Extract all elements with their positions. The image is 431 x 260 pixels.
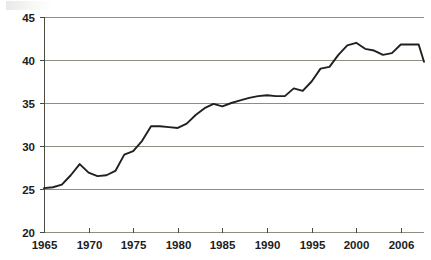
x-tick-marks [45,228,402,233]
x-tick-label-1965: 1965 [32,239,58,251]
y-tick-label-30: 30 [22,141,35,153]
data-line-series-1 [44,43,424,188]
x-tick-label-1975: 1975 [121,239,147,251]
data-series-group [44,43,424,188]
x-tick-label-1985: 1985 [210,239,236,251]
x-tick-label-2006: 2006 [389,239,415,251]
y-tick-label-20: 20 [22,227,35,239]
x-tick-labels: 196519701975198019851990199520002006 [32,239,415,251]
x-tick-label-2000: 2000 [344,239,370,251]
y-tick-marks [40,18,45,233]
y-tick-label-35: 35 [22,98,35,110]
x-tick-label-1970: 1970 [77,239,103,251]
chart-canvas: 202530354045 196519701975198019851990199… [0,0,431,260]
line-chart-figure: 202530354045 196519701975198019851990199… [0,0,431,260]
y-axis-group: 202530354045 [22,12,44,239]
y-tick-label-25: 25 [22,184,35,196]
x-axis-group: 196519701975198019851990199520002006 [32,228,415,251]
y-tick-label-40: 40 [22,55,35,67]
x-tick-label-1995: 1995 [300,239,326,251]
x-tick-label-1980: 1980 [166,239,192,251]
y-tick-labels: 202530354045 [22,12,35,239]
y-tick-label-45: 45 [22,12,35,24]
x-tick-label-1990: 1990 [255,239,281,251]
